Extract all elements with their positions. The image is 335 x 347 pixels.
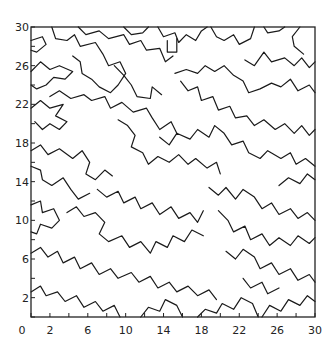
contour-line [279,174,315,186]
y-axis-tick-labels: 26101418222630 [15,21,29,305]
contour-line [31,166,90,199]
y-tick-label: 14 [15,176,29,189]
y-tick-label: 30 [15,21,29,34]
contour-line [262,296,315,317]
contour-line [175,66,315,93]
x-tick-label: 10 [119,324,133,337]
contour-line [243,278,279,294]
x-tick-label: 30 [308,324,322,337]
contour-line [160,126,315,167]
contour-line [67,207,203,253]
contour-line [50,91,177,134]
x-tick-label: 14 [157,324,171,337]
contour-line [78,27,173,62]
contour-line [211,27,255,44]
x-tick-label: 18 [194,324,208,337]
contour-line [97,189,203,222]
y-tick-label: 10 [15,214,29,227]
contour-line [31,247,217,299]
x-tick-label: 0 [19,324,26,337]
contour-line [181,81,315,135]
contour-line [226,249,315,282]
x-axis-tick-labels: 026101418222630 [19,324,323,337]
y-tick-label: 26 [15,60,29,73]
contour-line [209,188,315,221]
contour-line [198,298,259,317]
axis-ticks [31,27,315,317]
y-tick-label: 6 [22,253,29,266]
x-tick-label: 6 [84,324,91,337]
y-tick-label: 2 [22,292,29,305]
contour-line [31,201,59,234]
contour-line [158,27,207,43]
contour-line [31,101,67,130]
contour-line [245,52,315,68]
y-tick-label: 18 [15,137,29,150]
contour-line [31,286,120,317]
contour-lines [31,27,315,317]
contour-line [292,27,303,54]
x-tick-label: 26 [270,324,284,337]
contour-line [264,27,285,33]
contour-line [31,145,112,180]
contour-line [141,300,183,317]
contour-line [167,39,177,53]
contour-line [31,37,46,52]
x-tick-label: 2 [46,324,53,337]
x-tick-label: 22 [232,324,246,337]
contour-line [114,66,161,99]
contour-line [124,27,149,35]
contour-line [118,120,220,174]
plot-frame [31,27,315,317]
contour-plot: 026101418222630 26101418222630 [0,0,335,347]
contour-line [31,62,73,89]
contour-line [218,211,315,246]
y-tick-label: 22 [15,98,29,111]
